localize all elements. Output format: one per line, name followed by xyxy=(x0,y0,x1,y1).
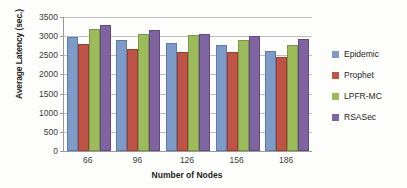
bar xyxy=(249,36,260,151)
bar xyxy=(138,34,149,151)
legend-item-epidemic[interactable]: Epidemic xyxy=(332,49,382,59)
y-axis-tick-mark xyxy=(60,17,63,18)
bar-groups xyxy=(64,17,312,151)
x-axis-tick-label: 96 xyxy=(113,155,163,165)
plot-area xyxy=(63,17,312,152)
y-axis-tick-mark xyxy=(60,55,63,56)
x-axis-tick-labels: 6696126156186 xyxy=(63,155,311,165)
y-axis-tick-label: 0 xyxy=(18,146,58,156)
legend-item-prophet[interactable]: Prophet xyxy=(332,70,382,80)
bar xyxy=(127,49,138,151)
bar-group xyxy=(163,17,213,151)
y-axis-tick-label: 3500 xyxy=(18,12,58,22)
legend-label: Epidemic xyxy=(344,49,379,59)
y-axis-tick-label: 1500 xyxy=(18,89,58,99)
y-axis-tick-label: 2000 xyxy=(18,69,58,79)
bar xyxy=(89,29,100,151)
legend-item-rsasec[interactable]: RSASec xyxy=(332,112,382,122)
bar-chart: Average Latency (sec.) 05001000150020002… xyxy=(0,0,407,188)
bar xyxy=(265,51,276,151)
y-axis-tick-mark xyxy=(60,113,63,114)
bar xyxy=(149,30,160,151)
bar-group xyxy=(114,17,164,151)
bar xyxy=(276,57,287,151)
bar-group xyxy=(262,17,312,151)
bar xyxy=(166,43,177,151)
chart-legend: EpidemicProphetLPFR-MCRSASec xyxy=(332,49,382,122)
bar xyxy=(227,52,238,151)
bar-group xyxy=(64,17,114,151)
bar xyxy=(100,25,111,151)
bar xyxy=(238,40,249,151)
legend-swatch-icon xyxy=(332,93,339,100)
bar xyxy=(298,39,309,151)
bar xyxy=(199,34,210,151)
legend-swatch-icon xyxy=(332,114,339,121)
bar xyxy=(287,45,298,151)
bar xyxy=(216,45,227,151)
y-axis-tick-label: 500 xyxy=(18,127,58,137)
x-axis-tick-label: 126 xyxy=(162,155,212,165)
x-axis-tick-label: 186 xyxy=(261,155,311,165)
bar xyxy=(188,35,199,151)
bar xyxy=(177,52,188,151)
x-axis-tick-label: 156 xyxy=(212,155,262,165)
x-axis-title: Number of Nodes xyxy=(63,170,311,180)
y-axis-tick-mark xyxy=(60,132,63,133)
x-axis-tick-label: 66 xyxy=(63,155,113,165)
bar xyxy=(78,44,89,151)
legend-label: LPFR-MC xyxy=(344,91,382,101)
y-axis-tick-label: 1000 xyxy=(18,108,58,118)
y-axis-tick-label: 2500 xyxy=(18,50,58,60)
bar-group xyxy=(213,17,263,151)
y-axis-tick-mark xyxy=(60,36,63,37)
bar xyxy=(116,40,127,151)
y-axis-tick-mark xyxy=(60,74,63,75)
y-axis-tick-mark xyxy=(60,94,63,95)
legend-label: RSASec xyxy=(344,112,376,122)
legend-label: Prophet xyxy=(344,70,374,80)
legend-swatch-icon xyxy=(332,72,339,79)
legend-swatch-icon xyxy=(332,51,339,58)
bar xyxy=(67,37,78,151)
y-axis-tick-mark xyxy=(60,151,63,152)
y-axis-tick-label: 3000 xyxy=(18,31,58,41)
legend-item-lpfr-mc[interactable]: LPFR-MC xyxy=(332,91,382,101)
